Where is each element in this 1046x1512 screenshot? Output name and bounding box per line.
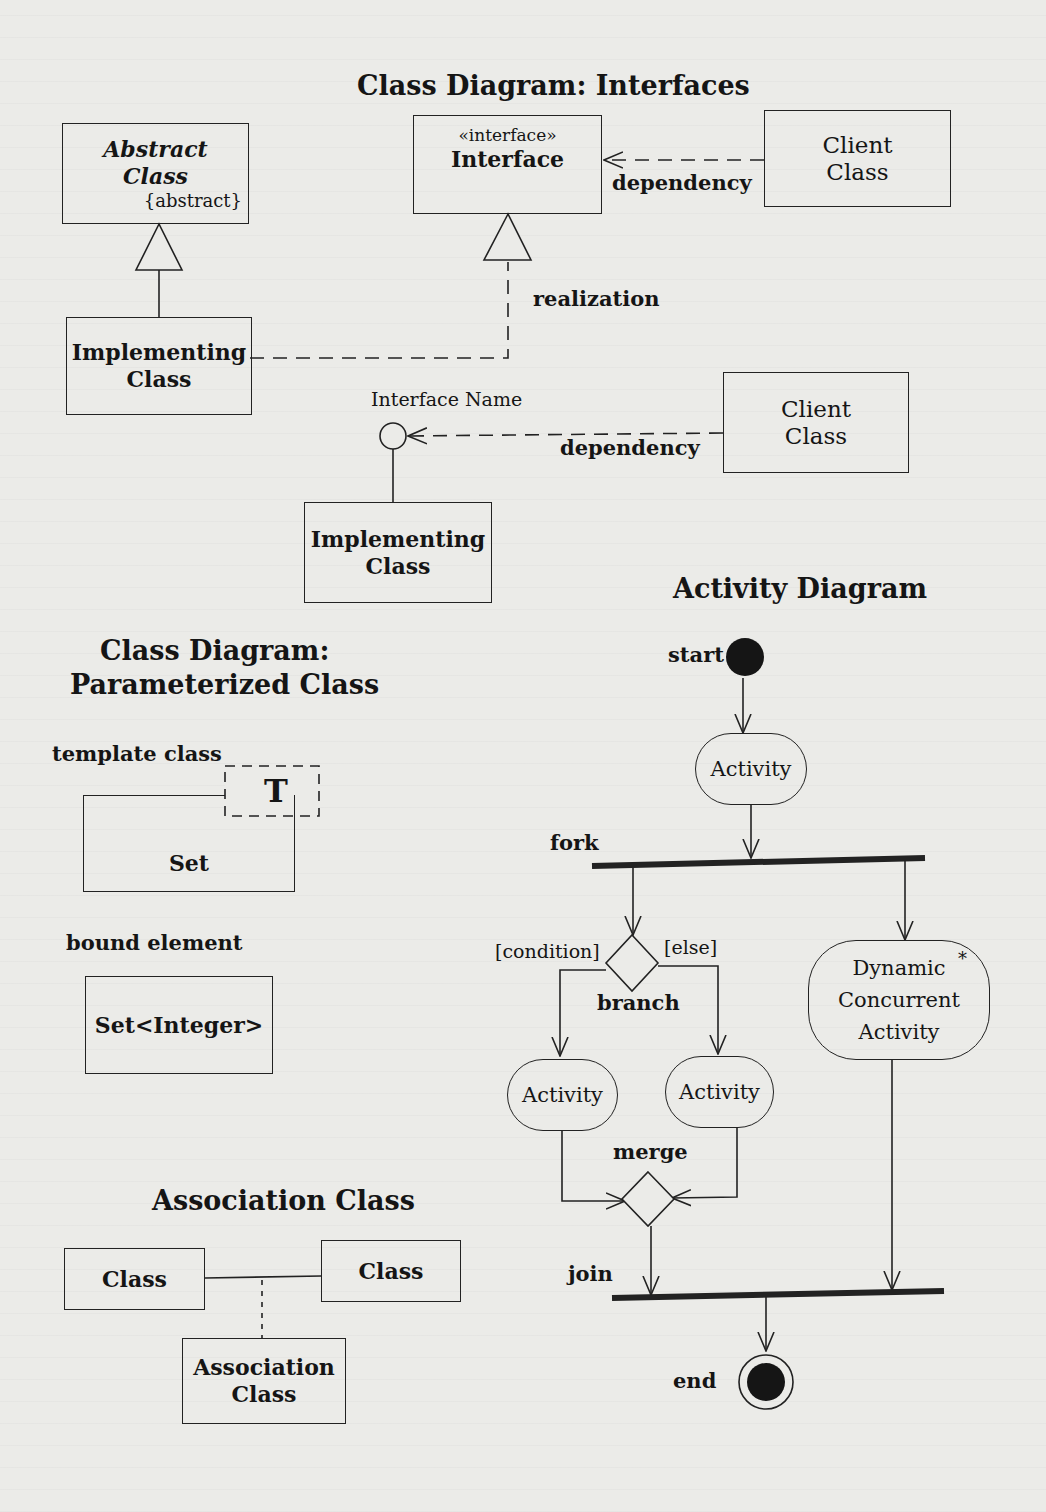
abstract-class-box[interactable]: Abstract Class {abstract} <box>62 123 249 224</box>
activity-left-text: Activity <box>522 1079 603 1111</box>
dynamic-multiplicity: * <box>958 948 967 969</box>
implementing-class-top-line1: Implementing <box>72 339 246 366</box>
dependency-bottom-label: dependency <box>560 435 700 460</box>
dynamic-line3: Activity <box>859 1016 940 1048</box>
end-node-icon <box>747 1363 785 1401</box>
client-class-bottom-box[interactable]: Client Class <box>723 372 909 473</box>
association-class-line1: Association <box>193 1354 335 1381</box>
bound-element-label: bound element <box>66 930 242 955</box>
client-class-top-line2: Class <box>826 159 888 186</box>
parameterized-title-line2: Parameterized Class <box>70 669 379 700</box>
end-label: end <box>673 1368 716 1393</box>
implementing-class-bottom-box[interactable]: Implementing Class <box>304 502 492 603</box>
client-class-bottom-line1: Client <box>781 396 851 423</box>
activity-title: Activity Diagram <box>673 573 927 604</box>
join-bar <box>612 1291 944 1298</box>
merge-diamond-icon <box>622 1172 674 1226</box>
abstract-class-line1: Abstract <box>103 136 207 163</box>
parameterized-title-line1: Class Diagram: <box>100 635 329 666</box>
activity-top-text: Activity <box>711 753 792 785</box>
start-label: start <box>668 642 724 667</box>
abstract-constraint: {abstract} <box>144 190 248 211</box>
association-left-class-name: Class <box>102 1266 167 1293</box>
association-right-class-name: Class <box>359 1258 424 1285</box>
abstract-class-line2: Class <box>123 163 188 190</box>
interface-name: Interface <box>451 146 564 173</box>
association-left-class-box[interactable]: Class <box>64 1248 205 1310</box>
activity-node-right[interactable]: Activity <box>665 1056 774 1128</box>
activity-right-text: Activity <box>679 1076 760 1108</box>
lollipop-interface-name: Interface Name <box>371 388 522 410</box>
template-class-label: template class <box>52 741 222 766</box>
association-title: Association Class <box>152 1185 415 1216</box>
realization-label: realization <box>533 286 659 311</box>
activity-node-top[interactable]: Activity <box>695 733 807 805</box>
interface-stereotype: «interface» <box>458 124 556 146</box>
association-line <box>205 1276 321 1278</box>
client-class-top-line1: Client <box>823 132 893 159</box>
realization-arrowhead-icon <box>484 214 531 260</box>
association-class-line2: Class <box>232 1381 297 1408</box>
client-class-bottom-line2: Class <box>785 423 847 450</box>
activity-node-left[interactable]: Activity <box>507 1059 618 1131</box>
fork-label: fork <box>550 830 599 855</box>
generalization-arrowhead-icon <box>136 224 182 270</box>
interface-box[interactable]: «interface» Interface <box>413 115 602 214</box>
implementing-class-bottom-line2: Class <box>366 553 431 580</box>
dynamic-line1: Dynamic <box>852 952 945 984</box>
start-node-icon <box>726 638 764 676</box>
bound-element-box[interactable]: Set<Integer> <box>85 976 273 1074</box>
dependency-top-label: dependency <box>612 170 752 195</box>
implementing-class-top-line2: Class <box>127 366 192 393</box>
template-parameter: T <box>264 772 288 810</box>
association-class-box[interactable]: Association Class <box>182 1338 346 1424</box>
branch-label: branch <box>597 990 680 1015</box>
fork-bar <box>592 858 925 866</box>
guard-condition: [condition] <box>495 940 600 962</box>
template-class-name: Set <box>169 850 209 877</box>
template-box-top-edge <box>83 795 225 796</box>
bound-class-name: Set<Integer> <box>95 1012 263 1039</box>
join-label: join <box>568 1261 613 1286</box>
guard-else: [else] <box>664 936 717 958</box>
client-class-top-box[interactable]: Client Class <box>764 110 951 207</box>
realization-line <box>250 262 508 358</box>
interfaces-title: Class Diagram: Interfaces <box>357 70 750 101</box>
implementing-class-bottom-line1: Implementing <box>311 526 485 553</box>
interface-lollipop-icon <box>380 423 406 449</box>
implementing-class-top-box[interactable]: Implementing Class <box>66 317 252 415</box>
association-right-class-box[interactable]: Class <box>321 1240 461 1302</box>
merge-label: merge <box>613 1139 688 1164</box>
dynamic-line2: Concurrent <box>838 984 960 1016</box>
branch-diamond-icon <box>606 935 658 991</box>
